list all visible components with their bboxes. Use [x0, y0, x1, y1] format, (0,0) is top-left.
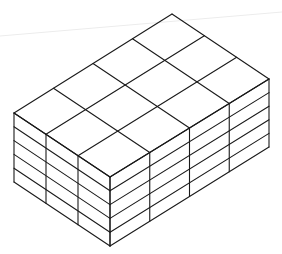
left-face-horizontal: [14, 127, 110, 191]
grid-lines: [14, 14, 269, 246]
left-face-horizontal: [14, 182, 110, 246]
left-face-horizontal: [14, 141, 110, 205]
background-streak: [0, 12, 282, 36]
left-face-horizontal: [14, 168, 110, 232]
top-face-line: [46, 36, 204, 135]
left-face-horizontal: [14, 154, 110, 218]
cube-grid-drawing: [0, 0, 282, 254]
top-face-line: [14, 14, 172, 113]
